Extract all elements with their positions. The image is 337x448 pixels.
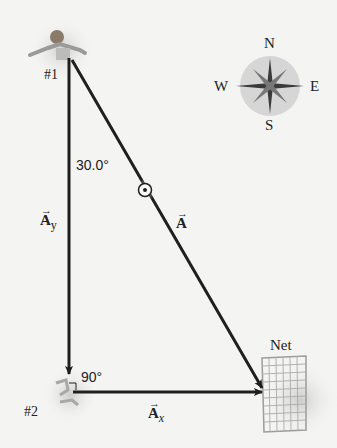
player-1-icon [30, 18, 94, 82]
compass-s-label: S [265, 118, 273, 133]
angle-30-label: 30.0° [76, 158, 109, 172]
player-2-label: #2 [24, 405, 38, 419]
compass-w-label: W [214, 79, 228, 94]
compass-n-label: N [264, 36, 275, 51]
compass-e-label: E [310, 79, 319, 94]
net-label: Net [270, 338, 292, 353]
compass-rose-icon [236, 56, 304, 116]
vector-a [72, 60, 262, 388]
player-1-label: #1 [44, 68, 58, 82]
angle-90-label: 90° [81, 370, 102, 384]
vector-ax-label: →Ax [148, 406, 164, 424]
vector-a-label: →A [176, 216, 187, 231]
soccer-ball-icon [134, 179, 156, 201]
vector-ay-label: →Ay [40, 213, 57, 231]
net-icon [262, 356, 337, 438]
